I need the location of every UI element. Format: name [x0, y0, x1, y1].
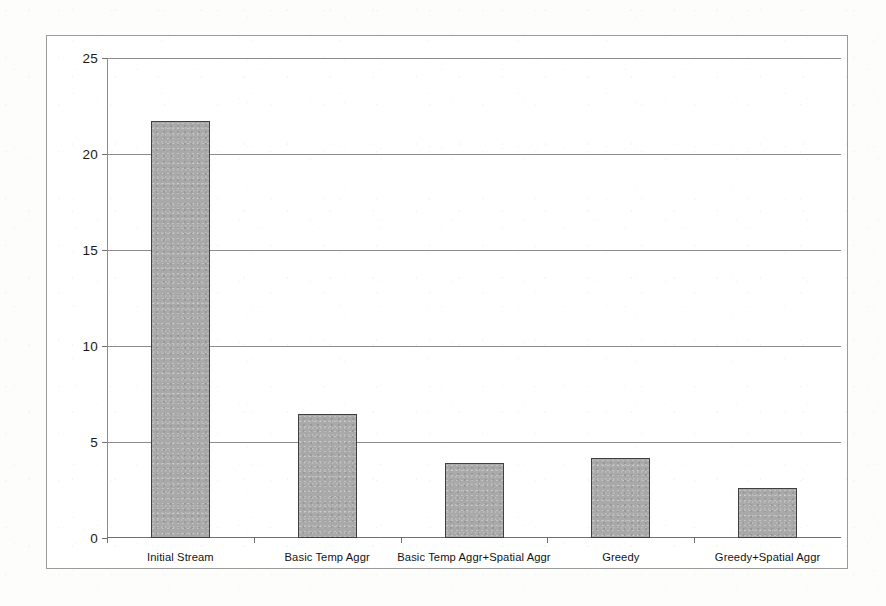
plot-area: 0510152025 Initial StreamBasic Temp Aggr…	[107, 58, 841, 538]
x-tick-mark	[401, 538, 402, 543]
y-tick-label-10: 10	[83, 339, 98, 354]
x-axis-label: Greedy+Spatial Aggr	[715, 551, 820, 563]
y-axis-title: Stream Size (MB)	[56, 0, 78, 57]
x-tick-mark-origin	[107, 538, 108, 543]
x-tick-mark	[694, 538, 695, 543]
y-tick-label-5: 5	[90, 435, 98, 450]
y-tick-mark-5	[102, 442, 107, 443]
y-tick-mark-10	[102, 346, 107, 347]
x-axis-label: Basic Temp Aggr	[285, 551, 370, 563]
bar	[445, 463, 504, 538]
bar	[738, 488, 797, 538]
gridline-15	[107, 250, 841, 251]
gridline-20	[107, 154, 841, 155]
bar	[298, 414, 357, 538]
y-tick-label-25: 25	[83, 51, 98, 66]
y-tick-mark-20	[102, 154, 107, 155]
y-tick-label-15: 15	[83, 243, 98, 258]
gridline-25	[107, 58, 841, 59]
bar	[151, 121, 210, 538]
x-tick-mark	[547, 538, 548, 543]
y-axis-line	[107, 58, 108, 538]
chart-frame: 0510152025 Initial StreamBasic Temp Aggr…	[46, 35, 848, 569]
y-tick-label-20: 20	[83, 147, 98, 162]
x-axis-label: Greedy	[602, 551, 639, 563]
x-tick-mark	[254, 538, 255, 543]
y-tick-label-0: 0	[90, 531, 98, 546]
bar	[591, 458, 650, 538]
y-tick-mark-15	[102, 250, 107, 251]
gridline-10	[107, 346, 841, 347]
x-axis-label: Initial Stream	[147, 551, 214, 563]
x-axis-label: Basic Temp Aggr+Spatial Aggr	[397, 551, 550, 563]
gridline-5	[107, 442, 841, 443]
y-tick-mark-25	[102, 58, 107, 59]
